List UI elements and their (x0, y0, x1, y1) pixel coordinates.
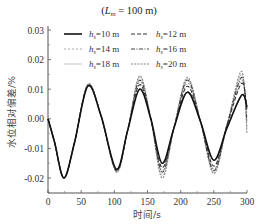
legend-label: hs=10 m (89, 29, 119, 40)
x-tick-label: 100 (107, 197, 122, 207)
y-tick-label: -0.02 (24, 174, 44, 184)
title-text: (Lm = 100 m) (101, 5, 157, 18)
y-tick-label: 0.01 (27, 85, 44, 95)
legend-label: hs=14 m (89, 44, 119, 55)
x-tick-label: 150 (140, 197, 155, 207)
x-tick-label: 250 (207, 197, 222, 207)
y-tick-label: -0.01 (24, 144, 44, 154)
axes: 0.030.020.010.00-0.01-0.0205010015020025… (24, 26, 254, 208)
legend-label: hs=12 m (156, 29, 186, 40)
x-tick-label: 200 (174, 197, 189, 207)
data-series (48, 71, 247, 178)
x-tick-label: 0 (46, 197, 51, 207)
legend-label: hs=16 m (156, 44, 186, 55)
line-chart: (Lm = 100 m) 0.030.020.010.00-0.01-0.020… (0, 0, 258, 224)
legend-label: hs=18 m (89, 59, 119, 70)
x-axis-label: 时间/s (133, 209, 161, 220)
x-tick-label: 50 (76, 197, 86, 207)
y-axis-label: 水位相对偏差/% (6, 76, 17, 148)
y-tick-label: 0.03 (27, 26, 44, 36)
chart-title: (Lm = 100 m) (101, 5, 157, 18)
legend: hs=10 mhs=12 mhs=14 mhs=16 mhs=18 mhs=20… (64, 29, 186, 70)
legend-label: hs=20 m (156, 59, 186, 70)
y-tick-label: 0.02 (27, 55, 44, 65)
x-tick-label: 300 (240, 197, 255, 207)
y-tick-label: 0.00 (27, 114, 44, 124)
